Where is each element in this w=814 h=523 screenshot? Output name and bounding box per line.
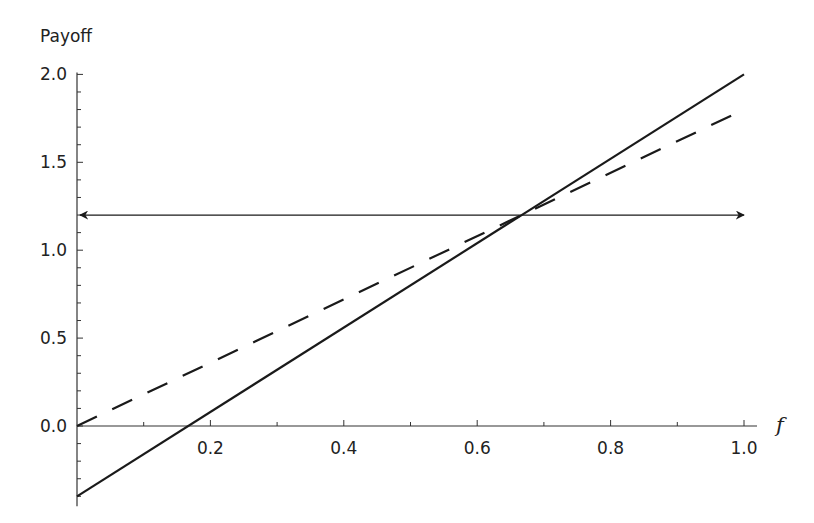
data-series <box>77 74 744 496</box>
solid-payoff-line <box>77 74 744 496</box>
x-tick-label: 0.2 <box>197 438 224 458</box>
x-tick-label: 0.4 <box>330 438 357 458</box>
y-tick-label: 0.5 <box>40 328 67 348</box>
x-tick-label: 1.0 <box>730 438 757 458</box>
dashed-payoff-line <box>77 110 744 426</box>
x-tick-label: 0.8 <box>597 438 624 458</box>
x-tick-label: 0.6 <box>464 438 491 458</box>
y-tick-label: 0.0 <box>40 416 67 436</box>
axes <box>77 72 757 506</box>
y-axis-title: Payoff <box>40 26 93 46</box>
y-tick-label: 1.0 <box>40 240 67 260</box>
x-axis-title: f <box>774 413 787 437</box>
tick-labels: 0.20.40.60.81.00.00.51.01.52.0 <box>40 64 758 458</box>
y-tick-label: 1.5 <box>40 152 67 172</box>
payoff-chart: 0.20.40.60.81.00.00.51.01.52.0 Payoff f <box>0 0 814 523</box>
y-tick-label: 2.0 <box>40 64 67 84</box>
